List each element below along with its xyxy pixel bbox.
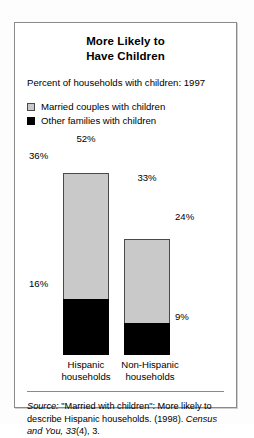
source-prefix: Source: — [27, 401, 59, 411]
figure-frame: More Likely to Have Children Percent of … — [14, 22, 237, 408]
category-label-non-hispanic-line-1: Non-Hispanic — [109, 359, 191, 371]
bar2-other-label: 9% — [175, 311, 189, 322]
figure-title-line-2: Have Children — [15, 49, 236, 64]
chart-plot-area: 52% 36% 16% 33% 24% 9% — [15, 133, 236, 355]
bar1-other-label: 16% — [29, 278, 48, 289]
legend-swatch-black-icon — [27, 117, 35, 125]
figure-title: More Likely to Have Children — [15, 34, 236, 64]
bar1-married-label: 36% — [29, 150, 48, 161]
source-citation: Source: "Married with children": More li… — [15, 392, 236, 438]
category-label-non-hispanic: Non-Hispanic households — [109, 359, 191, 383]
category-axis-labels: Hispanic households Non-Hispanic househo… — [15, 359, 236, 385]
legend-label-other: Other families with children — [41, 115, 156, 126]
source-text-2: (4), 3. — [76, 426, 100, 436]
bar2-married-label: 24% — [175, 211, 194, 222]
bar1-total-label: 52% — [63, 133, 109, 144]
figure-subtitle: Percent of households with children: 199… — [15, 77, 236, 89]
legend-swatch-gray-icon — [27, 103, 35, 111]
bar-hispanic-other-segment — [63, 299, 109, 355]
category-label-non-hispanic-line-2: households — [109, 371, 191, 383]
bar2-total-label: 33% — [124, 172, 170, 183]
bar-non-hispanic-other-segment — [124, 323, 170, 355]
legend-item-married: Married couples with children — [27, 100, 236, 113]
bar-hispanic — [63, 173, 109, 355]
bar-non-hispanic — [124, 239, 170, 355]
chart-legend: Married couples with children Other fami… — [15, 100, 236, 127]
legend-item-other: Other families with children — [27, 114, 236, 127]
legend-label-married: Married couples with children — [41, 101, 165, 112]
figure-title-line-1: More Likely to — [15, 34, 236, 49]
